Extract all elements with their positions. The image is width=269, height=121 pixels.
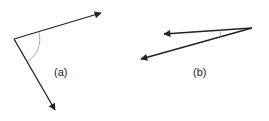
diagram-svg: (a) (b) [0, 0, 269, 121]
angle-diagram: (a) (b) [0, 0, 269, 121]
angle-arc-b [220, 30, 221, 37]
figure-a: (a) [14, 13, 101, 110]
vector-a1 [14, 13, 101, 39]
figure-b-label: (b) [193, 66, 206, 78]
vector-b2 [141, 28, 252, 59]
figure-a-label: (a) [54, 66, 67, 78]
vector-b1 [164, 28, 252, 34]
angle-arc-a [28, 32, 40, 61]
vector-a2 [14, 39, 55, 110]
figure-b: (b) [141, 28, 252, 78]
